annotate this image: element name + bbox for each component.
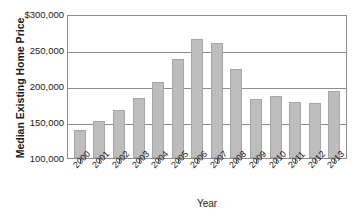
y-axis-tick-label: 200,000 xyxy=(6,82,64,92)
bar[interactable] xyxy=(211,43,223,158)
bar-series xyxy=(68,16,346,158)
y-axis-tick-label: 150,000 xyxy=(6,118,64,128)
plot-area xyxy=(67,15,347,159)
bar-slot xyxy=(70,16,90,158)
bar-slot xyxy=(305,16,325,158)
bar[interactable] xyxy=(152,82,164,158)
y-axis-tick-labels: $300,000250,000200,000150,000100,000 xyxy=(0,0,64,218)
x-axis-title: Year xyxy=(67,198,347,209)
bar-slot xyxy=(129,16,149,158)
y-axis-tick-label: 250,000 xyxy=(6,46,64,56)
bar-slot xyxy=(168,16,188,158)
bar-chart: Median Existing Home Price $300,000250,0… xyxy=(0,0,357,218)
y-axis-tick-label: 100,000 xyxy=(6,154,64,164)
bar-slot xyxy=(246,16,266,158)
bar-slot xyxy=(207,16,227,158)
bar-slot xyxy=(325,16,345,158)
bar[interactable] xyxy=(172,59,184,158)
bar-slot xyxy=(109,16,129,158)
bar-slot xyxy=(90,16,110,158)
bar[interactable] xyxy=(230,69,242,158)
bar-slot xyxy=(148,16,168,158)
bar-slot xyxy=(227,16,247,158)
bar-slot xyxy=(187,16,207,158)
x-axis-tick-labels: 2000200120022003200420052006200720082009… xyxy=(67,163,347,195)
bar-slot xyxy=(266,16,286,158)
y-axis-tick-label: $300,000 xyxy=(6,10,64,20)
bar-slot xyxy=(285,16,305,158)
bar[interactable] xyxy=(191,39,203,158)
